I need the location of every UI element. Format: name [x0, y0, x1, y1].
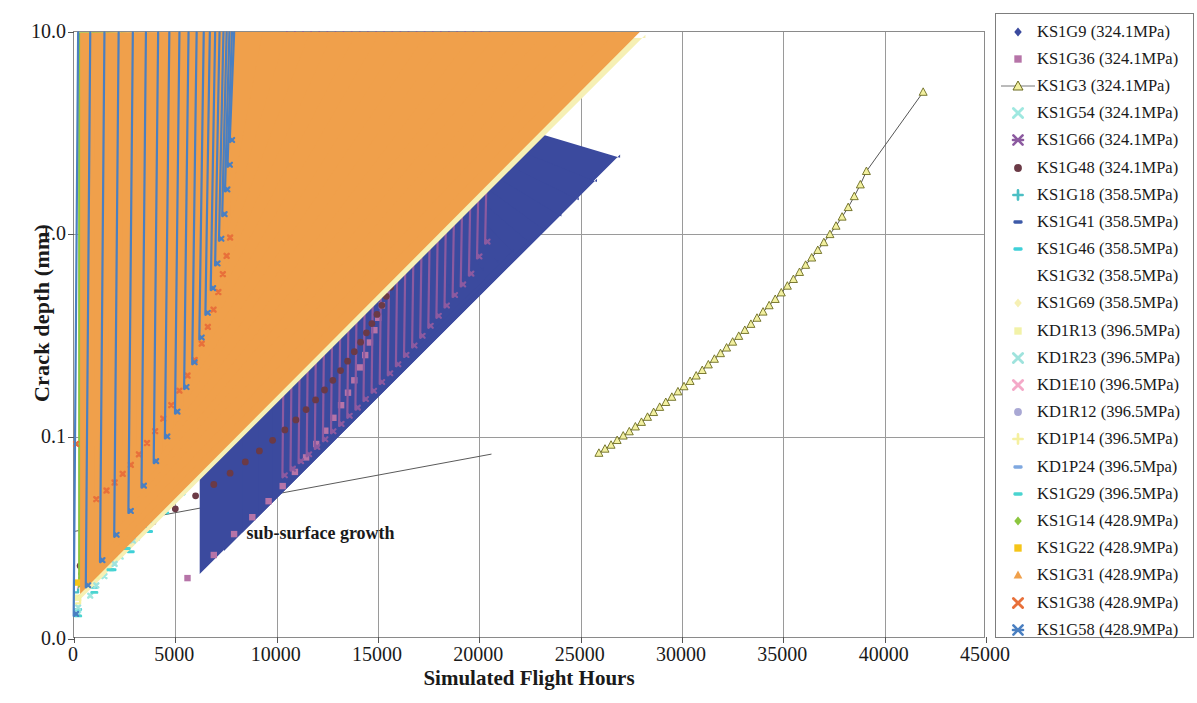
y-tick-label: 0.0	[0, 627, 66, 650]
legend-label: KS1G41 (358.5MPa)	[1035, 212, 1178, 232]
legend-label: KS1G3 (324.1MPa)	[1035, 76, 1170, 96]
legend-item[interactable]: KS1G18 (358.5MPa)	[996, 181, 1193, 208]
legend-marker	[1001, 375, 1035, 395]
legend-label: KS1G31 (428.9MPa)	[1035, 565, 1178, 585]
legend-marker-triangle-icon	[1001, 76, 1035, 96]
legend-label: KD1R23 (396.5MPa)	[1035, 348, 1180, 368]
x-tick-label: 15000	[322, 643, 432, 666]
y-tick-label: 1.0	[0, 222, 66, 245]
x-tick-label: 35000	[727, 643, 837, 666]
legend-label: KS1G36 (324.1MPa)	[1035, 49, 1178, 69]
legend-label: KS1G46 (358.5MPa)	[1035, 239, 1178, 259]
legend-label: KS1G48 (324.1MPa)	[1035, 158, 1178, 178]
legend-item[interactable]: KD1R13 (396.5MPa)	[996, 317, 1193, 344]
legend-label: KD1P24 (396.5Mpa)	[1035, 457, 1177, 477]
legend-item[interactable]: KS1G9 (324.1MPa)	[996, 18, 1193, 45]
legend-item[interactable]: KS1G58 (428.9MPa)	[996, 616, 1193, 643]
legend-item[interactable]: KD1E10 (396.5MPa)	[996, 371, 1193, 398]
legend-marker	[1001, 457, 1035, 477]
y-tick-label: 10.0	[0, 20, 66, 43]
legend-item[interactable]: KS1G32 (358.5MPa)	[996, 263, 1193, 290]
legend-item[interactable]: KS1G29 (396.5MPa)	[996, 480, 1193, 507]
legend-marker-x-icon	[1001, 103, 1035, 123]
legend-marker	[1001, 266, 1035, 286]
legend-item[interactable]: KS1G66 (324.1MPa)	[996, 127, 1193, 154]
legend-item[interactable]: KS1G3 (324.1MPa)	[996, 72, 1193, 99]
legend-marker-diamond-icon	[1001, 22, 1035, 42]
legend-marker-dash-icon	[1001, 212, 1035, 232]
legend-marker	[1001, 103, 1035, 123]
legend-label: KS1G18 (358.5MPa)	[1035, 185, 1178, 205]
legend-marker	[1001, 402, 1035, 422]
legend-marker	[1001, 429, 1035, 449]
legend-marker	[1001, 212, 1035, 232]
legend-label: KS1G38 (428.9MPa)	[1035, 593, 1178, 613]
legend-marker	[1001, 511, 1035, 531]
legend-marker	[1001, 484, 1035, 504]
legend-marker-star-icon	[1001, 620, 1035, 640]
legend-marker-dash-icon	[1001, 457, 1035, 477]
legend-marker	[1001, 348, 1035, 368]
legend-item[interactable]: KS1G36 (324.1MPa)	[996, 45, 1193, 72]
legend-marker-x-icon	[1001, 593, 1035, 613]
legend-label: KD1R13 (396.5MPa)	[1035, 321, 1180, 341]
legend-marker	[1001, 185, 1035, 205]
legend-label: KS1G58 (428.9MPa)	[1035, 620, 1178, 640]
legend-item[interactable]: KS1G54 (324.1MPa)	[996, 100, 1193, 127]
legend-label: KS1G14 (428.9MPa)	[1035, 511, 1178, 531]
legend-marker	[1001, 593, 1035, 613]
x-tick-label: 25000	[525, 643, 635, 666]
legend-item[interactable]: KD1R23 (396.5MPa)	[996, 344, 1193, 371]
legend-item[interactable]: KS1G48 (324.1MPa)	[996, 154, 1193, 181]
legend-item[interactable]: KS1G31 (428.9MPa)	[996, 562, 1193, 589]
legend-item[interactable]: KS1G22 (428.9MPa)	[996, 535, 1193, 562]
legend-marker-dash-icon	[1001, 239, 1035, 259]
legend-marker	[1001, 239, 1035, 259]
data-layer	[74, 32, 986, 639]
plot-area	[73, 31, 985, 638]
legend-label: KS1G66 (324.1MPa)	[1035, 130, 1178, 150]
legend-item[interactable]: KD1R12 (396.5MPa)	[996, 399, 1193, 426]
x-tick-label: 20000	[423, 643, 533, 666]
legend-marker-square-icon	[1001, 49, 1035, 69]
legend-marker-star-icon	[1001, 130, 1035, 150]
legend-marker-square-icon	[1001, 538, 1035, 558]
y-tick-mark	[68, 639, 74, 640]
legend-item[interactable]: KS1G46 (358.5MPa)	[996, 236, 1193, 263]
legend-marker-diamond-icon	[1001, 511, 1035, 531]
x-tick-label: 5000	[119, 643, 229, 666]
legend-item[interactable]: KS1G69 (358.5MPa)	[996, 290, 1193, 317]
legend-label: KS1G69 (358.5MPa)	[1035, 293, 1178, 313]
x-tick-label: 40000	[829, 643, 939, 666]
legend-label: KS1G32 (358.5MPa)	[1035, 266, 1178, 286]
legend-marker-diamond-icon	[1001, 293, 1035, 313]
legend-item[interactable]: KD1P14 (396.5MPa)	[996, 426, 1193, 453]
legend-marker	[1001, 293, 1035, 313]
legend-item[interactable]: KS1G41 (358.5MPa)	[996, 208, 1193, 235]
legend-item[interactable]: KD1P24 (396.5Mpa)	[996, 453, 1193, 480]
legend-marker	[1001, 76, 1035, 96]
legend-label: KD1R12 (396.5MPa)	[1035, 402, 1180, 422]
legend-marker-square-icon	[1001, 321, 1035, 341]
legend-marker-circle-icon	[1001, 402, 1035, 422]
sub-surface-growth-annotation: sub-surface growth	[246, 523, 394, 544]
legend-label: KS1G29 (396.5MPa)	[1035, 484, 1178, 504]
x-axis-title: Simulated Flight Hours	[73, 666, 985, 691]
legend-item[interactable]: KS1G14 (428.9MPa)	[996, 507, 1193, 534]
legend: KS1G9 (324.1MPa) KS1G36 (324.1MPa) KS1G3…	[995, 13, 1194, 638]
legend-label: KS1G22 (428.9MPa)	[1035, 538, 1178, 558]
legend-label: KD1E10 (396.5MPa)	[1035, 375, 1179, 395]
legend-marker	[1001, 565, 1035, 585]
legend-marker	[1001, 158, 1035, 178]
x-tick-label: 45000	[930, 643, 1040, 666]
legend-marker-triangle-icon	[1001, 565, 1035, 585]
legend-item[interactable]: KS1G38 (428.9MPa)	[996, 589, 1193, 616]
legend-marker	[1001, 620, 1035, 640]
legend-label: KS1G9 (324.1MPa)	[1035, 22, 1170, 42]
legend-marker-x-icon	[1001, 348, 1035, 368]
legend-marker	[1001, 538, 1035, 558]
legend-label: KD1P14 (396.5MPa)	[1035, 429, 1178, 449]
series-line	[599, 92, 923, 453]
legend-marker-circle-icon	[1001, 158, 1035, 178]
legend-label: KS1G54 (324.1MPa)	[1035, 103, 1178, 123]
